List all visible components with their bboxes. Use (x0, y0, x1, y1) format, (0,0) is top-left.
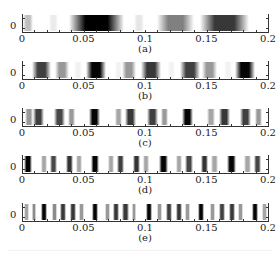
intensity-band (133, 156, 140, 172)
y-tick (266, 18, 269, 19)
intensity-band (122, 204, 128, 220)
intensity-band (70, 204, 76, 220)
intensity-band (68, 109, 75, 125)
x-tick-label: 0.2 (260, 127, 276, 138)
intensity-band (146, 204, 152, 220)
x-tick (170, 171, 171, 174)
x-tick-label: 0 (19, 174, 25, 185)
intensity-band (240, 109, 251, 125)
intensity-band (25, 109, 32, 125)
x-tick (47, 30, 48, 33)
panel-b: 0 (b) 00.050.10.150.2 (0, 61, 280, 109)
panel-caption: (e) (0, 232, 280, 243)
x-tick (157, 77, 158, 80)
y-tick-label: 0 (10, 209, 16, 220)
intensity-band (69, 15, 124, 31)
intensity-band (227, 156, 236, 172)
x-tick (231, 219, 232, 222)
intensity-band (198, 204, 204, 220)
x-tick-label: 0.15 (195, 127, 217, 138)
x-tick-label: 0.05 (72, 33, 94, 44)
y-tick (22, 75, 25, 76)
intensity-band (200, 15, 249, 31)
x-tick-label: 0.05 (72, 127, 94, 138)
x-tick (256, 77, 257, 80)
intensity-band (79, 204, 84, 220)
x-tick-label: 0.1 (137, 33, 153, 44)
x-tick (96, 219, 97, 222)
x-tick (182, 77, 183, 80)
x-tick (34, 171, 35, 174)
y-tick-label: 0 (10, 20, 16, 31)
x-tick (170, 219, 171, 222)
intensity-band (54, 109, 65, 125)
intensity-band (201, 156, 208, 172)
x-tick (133, 171, 134, 174)
x-tick (182, 171, 183, 174)
x-tick (256, 219, 257, 222)
y-tick (22, 207, 25, 208)
x-tick-label: 0.1 (137, 80, 153, 91)
panel-e: 0 (e) 00.050.10.150.2 (0, 203, 280, 251)
intensity-band (115, 62, 122, 78)
intensity-band (125, 109, 136, 125)
intensity-band (147, 109, 158, 125)
x-tick (120, 77, 121, 80)
x-tick (231, 77, 232, 80)
intensity-band (122, 62, 137, 78)
x-tick (34, 77, 35, 80)
intensity-band (254, 156, 261, 172)
y-tick (266, 75, 269, 76)
intensity-band (91, 156, 100, 172)
intensity-band (244, 156, 250, 172)
x-tick (170, 77, 171, 80)
x-tick-label: 0.05 (72, 80, 94, 91)
x-tick (219, 219, 220, 222)
y-tick-label: 0 (10, 67, 16, 78)
y-tick (22, 65, 25, 66)
intensity-band (32, 204, 37, 220)
x-tick (59, 171, 60, 174)
x-tick (231, 171, 232, 174)
x-tick-label: 0 (19, 33, 25, 44)
y-tick (266, 217, 269, 218)
panel-a: 0 (a) 00.050.10.150.2 (0, 14, 280, 62)
x-tick (157, 171, 158, 174)
intensity-band (219, 204, 225, 220)
x-tick (243, 219, 244, 222)
intensity-band (108, 156, 114, 172)
intensity-band (105, 204, 110, 220)
x-tick (157, 219, 158, 222)
intensity-band (52, 204, 57, 220)
intensity-band (132, 204, 137, 220)
x-tick-label: 0.05 (72, 222, 94, 233)
intensity-band (113, 204, 119, 220)
x-tick (34, 219, 35, 222)
x-tick (231, 124, 232, 127)
x-tick (59, 77, 60, 80)
y-tick (266, 159, 269, 160)
intensity-band (210, 204, 215, 220)
intensity-band (219, 109, 230, 125)
y-tick (22, 122, 25, 123)
intensity-band (211, 156, 217, 172)
x-tick (47, 219, 48, 222)
panel-caption: (d) (0, 184, 280, 195)
intensity-band (255, 109, 262, 125)
intensity-band (185, 204, 190, 220)
intensity-band (55, 62, 70, 78)
x-tick-label: 0 (19, 80, 25, 91)
y-tick (266, 28, 269, 29)
y-tick (266, 112, 269, 113)
x-tick (120, 124, 121, 127)
intensity-band (235, 62, 255, 78)
y-tick (22, 18, 25, 19)
y-tick (22, 112, 25, 113)
intensity-band (86, 62, 106, 78)
x-tick (219, 30, 220, 33)
x-tick-label: 0.05 (72, 174, 94, 185)
panel-d: 0 (d) 00.050.10.150.2 (0, 155, 280, 203)
x-tick (96, 77, 97, 80)
x-tick (120, 219, 121, 222)
x-tick (47, 124, 48, 127)
